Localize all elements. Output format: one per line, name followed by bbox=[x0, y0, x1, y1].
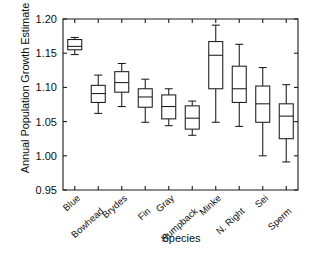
box-plot-item bbox=[232, 44, 246, 126]
box-plot-item bbox=[279, 85, 293, 162]
box-body bbox=[279, 104, 293, 139]
y-tick-label: 1.10 bbox=[36, 81, 57, 93]
x-tick-label: N. Right bbox=[214, 205, 247, 236]
x-tick-label-group: BlueBowheadBrydesFinGrayHumpbackMinkeN. … bbox=[61, 192, 294, 244]
box-plot-item bbox=[91, 75, 105, 113]
y-tick-label-group: 0.951.001.051.101.151.20 bbox=[36, 13, 57, 196]
box-plot-item bbox=[185, 101, 199, 135]
x-tick-label: Fin bbox=[135, 205, 152, 222]
x-tick-label: Brydes bbox=[100, 192, 130, 220]
x-tick-label: Humpback bbox=[158, 205, 199, 244]
x-tick-mark-group bbox=[75, 19, 287, 190]
y-tick-label: 1.00 bbox=[36, 150, 57, 162]
y-tick-label: 1.20 bbox=[36, 13, 57, 25]
box-body bbox=[209, 42, 223, 89]
box-plot-item bbox=[162, 89, 176, 126]
x-tick-label: Sei bbox=[253, 192, 271, 209]
box-body bbox=[185, 106, 199, 129]
x-tick-label: Gray bbox=[153, 192, 176, 214]
y-tick-label: 1.15 bbox=[36, 47, 57, 59]
y-tick-label: 0.95 bbox=[36, 184, 57, 196]
box-plot-item bbox=[138, 79, 152, 122]
x-tick-label: Sperm bbox=[265, 205, 293, 232]
plot-area: 0.951.001.051.101.151.20 BlueBowheadBryd… bbox=[0, 0, 316, 256]
box-body bbox=[115, 72, 129, 93]
box-body bbox=[232, 66, 246, 102]
y-tick-label: 1.05 bbox=[36, 116, 57, 128]
box-plot-item bbox=[256, 68, 270, 156]
box-plot-item bbox=[68, 37, 82, 54]
box-body bbox=[138, 89, 152, 107]
x-tick-label: Minke bbox=[197, 192, 223, 217]
box-plot-figure: Annual Population Growth Estimate Specie… bbox=[0, 0, 316, 256]
box-body bbox=[68, 40, 82, 50]
x-tick-label: Blue bbox=[61, 192, 82, 213]
box-plot-item bbox=[115, 63, 129, 106]
box-plot-item bbox=[209, 25, 223, 122]
box-group bbox=[68, 25, 294, 162]
